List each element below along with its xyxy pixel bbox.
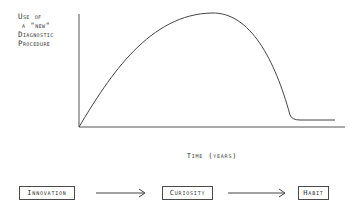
stage-box-habit: Habit — [298, 186, 329, 200]
usage-curve — [79, 13, 335, 127]
stage-label-curiosity: Curiosity — [170, 189, 206, 197]
stage-box-curiosity: Curiosity — [162, 186, 213, 200]
stage-box-innovation: Innovation — [19, 186, 75, 200]
stage-label-habit: Habit — [303, 189, 323, 197]
x-axis-label: Time (years) — [0, 152, 354, 160]
arrow-curiosity-to-habit — [228, 189, 285, 197]
stage-label-innovation: Innovation — [27, 189, 66, 197]
adoption-curve-plot — [0, 0, 354, 213]
arrow-innovation-to-curiosity — [96, 189, 145, 197]
